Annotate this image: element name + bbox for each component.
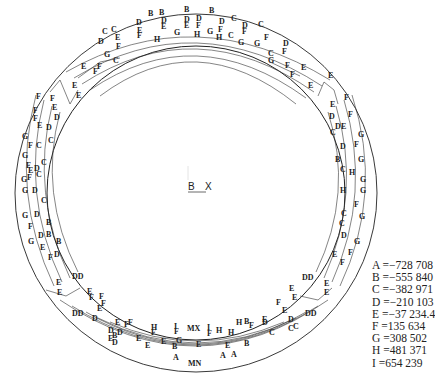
- legend-row-d: D =−210 103: [372, 296, 435, 308]
- contour-label: G: [104, 50, 110, 59]
- contour-label: D: [340, 142, 346, 151]
- contour-label: H: [154, 35, 161, 44]
- contour-label: E: [115, 318, 120, 327]
- contour-label: F: [196, 21, 201, 30]
- contour-label: E: [145, 341, 150, 350]
- contour-label: F: [348, 248, 353, 257]
- contour-label: F: [128, 318, 133, 327]
- contour-label: E: [282, 306, 287, 315]
- legend-row-e: E =−37 234.4: [372, 308, 435, 320]
- ring-outlines: [15, 14, 377, 372]
- contour-label: B: [244, 339, 250, 348]
- contour-label: C: [41, 158, 47, 167]
- contour-label: A: [231, 350, 237, 359]
- contour-label: F: [264, 33, 269, 42]
- legend-row-a: A =−728 708: [372, 259, 435, 271]
- contour-label: G: [22, 151, 28, 160]
- contour-label: F: [340, 258, 345, 267]
- contour-label: E: [324, 279, 329, 288]
- contour-label: F: [290, 70, 295, 79]
- contour-label: DD: [302, 273, 314, 282]
- contour-label: C: [231, 14, 237, 23]
- contour-label: C: [113, 56, 119, 65]
- contour-label: F: [151, 328, 156, 337]
- contour-label: H: [340, 186, 347, 195]
- contour-label: H: [349, 168, 356, 177]
- contour-label: F: [354, 140, 359, 149]
- contour-label: E: [330, 100, 335, 109]
- contour-label: D: [117, 328, 123, 337]
- contour-label: D: [54, 250, 60, 259]
- contour-label: E: [324, 288, 329, 297]
- contour-label: B: [46, 218, 52, 227]
- contour-label: H: [216, 326, 223, 335]
- contour-label: B: [112, 331, 118, 340]
- contour-label: G: [22, 186, 28, 195]
- contour-label: F: [242, 27, 247, 36]
- contour-label: C: [102, 27, 108, 36]
- contour-label: E: [332, 250, 337, 259]
- contour-label: E: [52, 103, 57, 112]
- contour-label: A: [220, 351, 226, 360]
- contour-label: DD: [72, 272, 84, 281]
- contour-label: E: [72, 81, 77, 90]
- contour-label: F: [33, 114, 38, 123]
- contour-label: F: [344, 93, 349, 102]
- contour-label: G: [21, 175, 27, 184]
- contour-label: F: [48, 253, 53, 262]
- contour-label: F: [97, 62, 102, 71]
- legend-row-b: B =−555 840: [372, 271, 435, 283]
- axis-triad: B X: [188, 166, 212, 192]
- contour-label: F: [50, 94, 55, 103]
- legend-row-c: C =−382 971: [372, 283, 435, 295]
- contour-legend: A =−728 708 B =−555 840 C =−382 971 D =−…: [372, 259, 435, 369]
- contour-label: B: [184, 5, 190, 14]
- contour-label: DD: [72, 309, 84, 318]
- contour-label: F: [116, 42, 121, 51]
- contour-label: D: [98, 37, 104, 46]
- contour-label: B: [335, 155, 341, 164]
- contour-label: G: [207, 27, 213, 36]
- contour-label: F: [348, 110, 353, 119]
- contour-label: A: [173, 353, 179, 362]
- contour-label: F: [89, 293, 94, 302]
- contour-label: E: [81, 62, 86, 71]
- contour-label: E: [57, 288, 62, 297]
- legend-row-i: I =654 239: [372, 357, 435, 369]
- contour-label: G: [254, 39, 260, 48]
- contour-label: MX: [187, 324, 201, 333]
- contour-label: E: [225, 341, 230, 350]
- contour-label: E: [292, 293, 297, 302]
- contour-label: C: [41, 196, 47, 205]
- outer-boundary: [15, 14, 377, 372]
- contour-label: E: [341, 122, 346, 131]
- contour-label: G: [174, 28, 180, 37]
- legend-row-f: F =135 634: [372, 320, 435, 332]
- contour-label: F: [26, 161, 31, 170]
- contour-label: F: [249, 321, 254, 330]
- contour-label: F: [36, 92, 41, 101]
- contour-label: F: [285, 61, 290, 70]
- contour-label: MN: [188, 359, 202, 368]
- axis-origin-label: B: [188, 181, 195, 192]
- contour-label: D: [341, 231, 347, 240]
- contour-label: F: [207, 329, 212, 338]
- contour-label: DD: [305, 309, 317, 318]
- contour-label: E: [308, 81, 313, 90]
- contour-label: G: [354, 237, 360, 246]
- contour-label: G: [360, 175, 366, 184]
- contour-label: D: [32, 186, 38, 195]
- contour-label: G: [358, 130, 364, 139]
- contour-label: E: [40, 243, 45, 252]
- contour-label: I: [174, 322, 177, 331]
- contour-label: G: [238, 38, 244, 47]
- contour-label: E: [328, 71, 333, 80]
- contour-label: B: [56, 237, 62, 246]
- contour-label: F: [282, 47, 287, 56]
- contour-label: D: [54, 113, 60, 122]
- axis-x-label: X: [205, 181, 212, 192]
- contour-label: H: [216, 33, 223, 42]
- contour-label: F: [137, 31, 142, 40]
- contour-label: E: [184, 21, 189, 30]
- contour-label: C: [258, 20, 264, 29]
